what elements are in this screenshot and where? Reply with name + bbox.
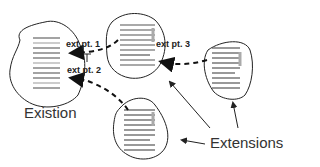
extension-blob-right xyxy=(204,42,252,100)
ext-pt-1-label: ext pt. 1 xyxy=(66,39,100,49)
extensions-label: Extensions xyxy=(210,134,283,151)
extension-blob-bottom xyxy=(113,98,167,159)
existing-label: Existion xyxy=(24,104,77,121)
ext-pt-3-connector xyxy=(162,60,207,64)
ext-pt-2-connector xyxy=(72,78,128,110)
ext-pt-2-label: ext pt. 2 xyxy=(67,65,101,75)
ext-pt-3-label: ext pt. 3 xyxy=(156,39,190,49)
